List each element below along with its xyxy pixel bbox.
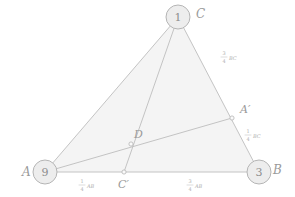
- fraction-numerator: 3: [222, 50, 225, 56]
- vertex-number-b: 3: [256, 166, 263, 179]
- fraction-segment-name: BC: [228, 55, 237, 61]
- fraction-segment-name: BC: [252, 133, 261, 139]
- fraction-numerator: 1: [246, 128, 249, 134]
- point-marker-a-prime: [230, 116, 234, 120]
- fraction-denominator: 4: [246, 136, 249, 142]
- fraction-segment-name: AB: [86, 183, 95, 189]
- vertex-number-c: 1: [175, 11, 182, 24]
- vertex-label-a: A: [21, 165, 31, 179]
- point-label-c-prime: C′: [118, 178, 129, 191]
- point-marker-c-prime: [122, 170, 126, 174]
- triangle-fill: [45, 17, 259, 172]
- measure-label-three-quarter-ab: 3 4 AB: [187, 178, 203, 191]
- vertex-label-b: B: [272, 163, 282, 177]
- fraction-denominator: 4: [188, 186, 191, 192]
- vertex-label-c: C: [196, 7, 205, 21]
- measure-label-one-quarter-bc: 1 4 BC: [245, 128, 261, 141]
- fraction-segment-name: AB: [194, 183, 203, 189]
- vertex-number-a: 9: [42, 166, 49, 179]
- point-marker-d: [129, 142, 133, 146]
- measure-label-three-quarter-bc: 3 4 BC: [221, 50, 237, 63]
- fraction-denominator: 4: [80, 186, 83, 192]
- geometry-figure: 1 C 9 A 3 B A′ C′ D 3 4 BC 1 4 BC 1: [0, 0, 295, 197]
- measure-label-one-quarter-ab: 1 4 AB: [79, 178, 95, 191]
- point-label-a-prime: A′: [239, 103, 251, 116]
- fraction-denominator: 4: [222, 58, 225, 64]
- fraction-numerator: 1: [80, 178, 83, 184]
- point-label-d: D: [133, 128, 143, 141]
- diagram-canvas: 1 C 9 A 3 B A′ C′ D 3 4 BC 1 4 BC 1: [0, 0, 295, 197]
- fraction-numerator: 3: [188, 178, 191, 184]
